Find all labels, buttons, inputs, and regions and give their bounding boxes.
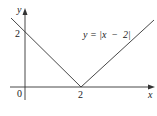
y-tick-2: 2	[15, 28, 20, 39]
y-axis-arrow-icon	[23, 8, 28, 15]
left-branch	[11, 18, 81, 87]
x-tick-2: 2	[78, 89, 83, 100]
equation-label: y = |x − 2|	[82, 29, 131, 40]
origin-label: 0	[17, 88, 22, 99]
graph: y 2 0 2 x y = |x − 2|	[0, 0, 157, 116]
x-axis-label: x	[147, 89, 153, 100]
y-axis-label: y	[16, 4, 22, 15]
